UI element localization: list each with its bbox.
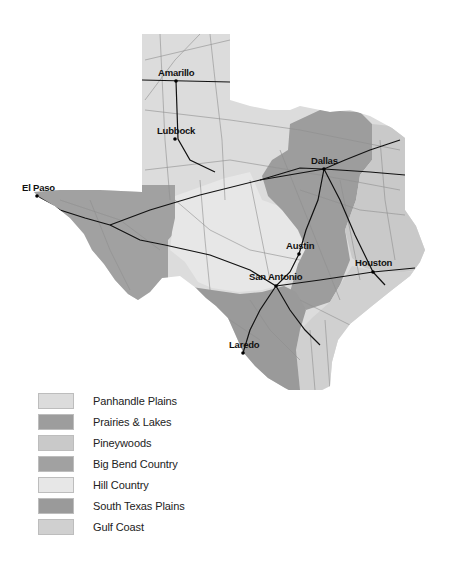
- legend-swatch: [38, 393, 74, 409]
- legend-swatch: [38, 456, 74, 472]
- legend: Panhandle Plains Prairies & Lakes Pineyw…: [38, 392, 185, 539]
- legend-swatch: [38, 519, 74, 535]
- city-marker-icon: [173, 137, 177, 141]
- legend-item-hill-country: Hill Country: [38, 476, 185, 493]
- legend-swatch: [38, 477, 74, 493]
- city-label: Houston: [355, 257, 393, 268]
- region-big-bend-country: [0, 185, 175, 300]
- legend-item-prairies-lakes: Prairies & Lakes: [38, 413, 185, 430]
- city-marker-icon: [297, 252, 301, 256]
- legend-label: Gulf Coast: [93, 521, 144, 533]
- legend-label: Panhandle Plains: [93, 395, 177, 407]
- legend-label: Pineywoods: [93, 437, 151, 449]
- legend-item-gulf-coast: Gulf Coast: [38, 518, 185, 535]
- city-marker-icon: [174, 79, 178, 83]
- city-marker-icon: [322, 167, 326, 171]
- city-marker-icon: [241, 351, 245, 355]
- legend-label: Hill Country: [93, 479, 149, 491]
- legend-label: South Texas Plains: [93, 500, 185, 512]
- legend-swatch: [38, 414, 74, 430]
- city-label: El Paso: [22, 182, 55, 193]
- legend-item-south-texas-plains: South Texas Plains: [38, 497, 185, 514]
- city-label: San Antonio: [249, 271, 303, 282]
- legend-label: Big Bend Country: [93, 458, 178, 470]
- legend-swatch: [38, 498, 74, 514]
- city-label: Austin: [286, 240, 315, 251]
- legend-label: Prairies & Lakes: [93, 416, 172, 428]
- city-label: Amarillo: [158, 67, 195, 78]
- city-marker-icon: [274, 284, 278, 288]
- texas-regions-map: AmarilloLubbockEl PasoDallasAustinSan An…: [0, 0, 450, 390]
- city-label: Dallas: [311, 155, 338, 166]
- legend-item-pineywoods: Pineywoods: [38, 434, 185, 451]
- city-label: Laredo: [229, 339, 260, 350]
- legend-swatch: [38, 435, 74, 451]
- city-marker-icon: [35, 194, 39, 198]
- legend-item-big-bend-country: Big Bend Country: [38, 455, 185, 472]
- legend-item-panhandle-plains: Panhandle Plains: [38, 392, 185, 409]
- city-marker-icon: [371, 270, 375, 274]
- city-label: Lubbock: [157, 125, 196, 136]
